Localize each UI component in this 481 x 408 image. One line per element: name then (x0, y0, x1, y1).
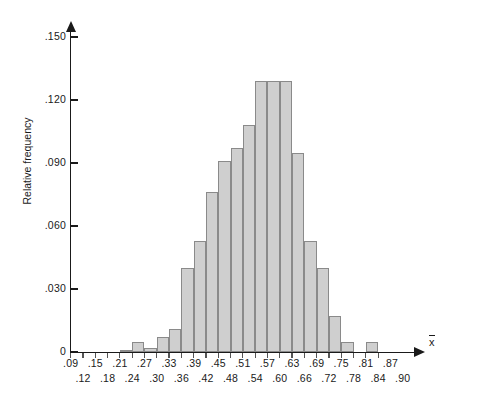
histogram-bar (243, 125, 255, 352)
histogram-bar (317, 268, 329, 352)
histogram-bar (194, 241, 206, 352)
histogram-bar (255, 81, 267, 352)
histogram-bar (341, 342, 353, 353)
histogram-bar (267, 81, 279, 352)
histogram-bar (206, 192, 218, 352)
histogram-bars (0, 0, 481, 408)
histogram-bar (181, 268, 193, 352)
histogram-bar (366, 342, 378, 353)
histogram-bar (218, 161, 230, 352)
histogram-figure: Relative frequency x .150.120.090.060.03… (0, 0, 481, 408)
histogram-bar (132, 342, 144, 353)
histogram-bar (169, 329, 181, 352)
histogram-bar (280, 81, 292, 352)
histogram-bar (292, 153, 304, 353)
histogram-bar (120, 350, 132, 352)
x-tick-label-upper: .87 (375, 357, 405, 369)
x-tick-label-lower: .90 (388, 372, 418, 384)
histogram-bar (144, 348, 156, 352)
histogram-bar (157, 337, 169, 352)
histogram-bar (231, 148, 243, 352)
histogram-bar (304, 241, 316, 352)
histogram-bar (329, 316, 341, 352)
